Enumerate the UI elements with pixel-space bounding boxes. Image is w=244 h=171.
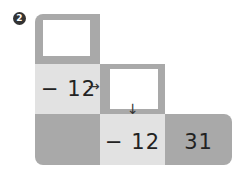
cell-r3c1 (35, 114, 100, 165)
cell-r3c3: 31 (165, 114, 232, 165)
problem-number-marker: 2 (13, 12, 26, 25)
arrow-right-icon: → (88, 78, 100, 94)
cell-r3c2: − 12 (100, 114, 165, 165)
value-r3c3: 31 (184, 130, 213, 154)
answer-box-r1c1[interactable] (43, 20, 90, 56)
value-r3c2: − 12 (105, 130, 160, 154)
cell-r1c1 (35, 14, 100, 64)
